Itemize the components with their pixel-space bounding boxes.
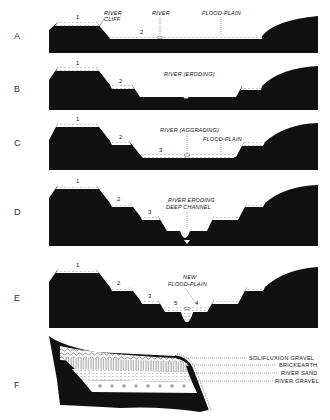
panel-b: 1 2 RIVER (ERODING) bbox=[49, 60, 318, 110]
svg-text:1: 1 bbox=[76, 262, 80, 268]
svg-text:2: 2 bbox=[119, 78, 123, 84]
svg-text:BRICKEARTH: BRICKEARTH bbox=[279, 362, 317, 368]
svg-text:3: 3 bbox=[148, 293, 152, 299]
panel-e: 1 2 3 5 4 4 NEW FLOOD-PLAIN bbox=[49, 262, 318, 329]
svg-text:3: 3 bbox=[159, 147, 163, 153]
svg-text:2: 2 bbox=[140, 29, 144, 35]
svg-text:SOLIFLUXION GRAVEL: SOLIFLUXION GRAVEL bbox=[249, 355, 314, 361]
svg-text:2: 2 bbox=[117, 196, 121, 202]
svg-text:1: 1 bbox=[76, 60, 80, 66]
svg-text:1: 1 bbox=[76, 116, 80, 122]
svg-text:RIVER (ERODING): RIVER (ERODING) bbox=[164, 71, 215, 77]
svg-text:CLIFF: CLIFF bbox=[104, 16, 121, 22]
svg-text:RIVER ERODING: RIVER ERODING bbox=[168, 197, 215, 203]
svg-text:RIVER (AGGRADING): RIVER (AGGRADING) bbox=[160, 127, 219, 133]
svg-text:FLOOD-PLAIN: FLOOD-PLAIN bbox=[168, 281, 207, 287]
svg-text:4: 4 bbox=[195, 300, 199, 306]
svg-text:NEW: NEW bbox=[183, 274, 197, 280]
svg-text:2: 2 bbox=[119, 134, 123, 140]
svg-text:FLOOD-PLAIN: FLOOD-PLAIN bbox=[202, 10, 241, 16]
svg-text:RIVER GRAVEL: RIVER GRAVEL bbox=[275, 378, 319, 384]
svg-text:DEEP CHANNEL: DEEP CHANNEL bbox=[166, 204, 211, 210]
svg-text:RIVER: RIVER bbox=[152, 10, 170, 16]
panel-d: 1 2 3 RIVER ERODING DEEP CHANNEL bbox=[49, 178, 318, 246]
panel-f: SOLIFLUXION GRAVEL BRICKEARTH RIVER SAND… bbox=[49, 336, 319, 412]
svg-text:3: 3 bbox=[148, 209, 152, 215]
river-terrace-diagram: 1 2 RIVER CLIFF RIVER FLOOD-PLAIN 1 2 RI… bbox=[0, 0, 330, 420]
svg-text:RIVER SAND: RIVER SAND bbox=[281, 370, 318, 376]
panel-c: 1 2 3 RIVER (AGGRADING) FLOOD-PLAIN bbox=[49, 116, 318, 170]
svg-text:1: 1 bbox=[76, 178, 80, 184]
svg-text:2: 2 bbox=[117, 280, 121, 286]
panel-a: 1 2 RIVER CLIFF RIVER FLOOD-PLAIN bbox=[49, 10, 318, 53]
svg-text:5: 5 bbox=[174, 300, 178, 306]
svg-text:FLOOD-PLAIN: FLOOD-PLAIN bbox=[203, 136, 242, 142]
svg-text:1: 1 bbox=[76, 14, 80, 20]
